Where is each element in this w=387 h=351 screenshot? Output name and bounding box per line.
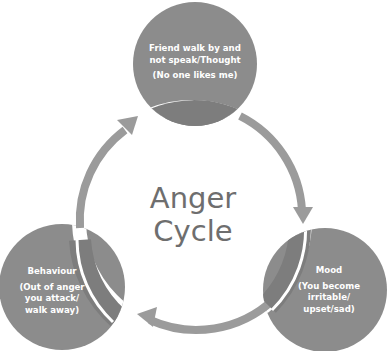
arrow-mood-to-behaviour: [150, 300, 273, 330]
node-mood-detail-3: upset/sad): [290, 304, 368, 316]
node-mood-detail-1: (You become: [290, 281, 368, 293]
node-thought-detail: (No one likes me): [135, 70, 255, 82]
node-behaviour-heading: Behaviour: [10, 266, 94, 278]
diagram-title: Anger Cycle: [128, 182, 258, 248]
node-behaviour: Behaviour (Out of anger you attack/ walk…: [10, 266, 94, 316]
node-thought: Friend walk by and not speak/Thought (No…: [135, 43, 255, 82]
title-line-2: Cycle: [128, 215, 258, 248]
title-line-1: Anger: [128, 182, 258, 215]
node-behaviour-detail-2: you attack/: [10, 293, 94, 305]
node-mood-detail-2: irritable/: [290, 292, 368, 304]
node-thought-heading-2: not speak/Thought: [135, 55, 255, 67]
node-behaviour-detail-3: walk away): [10, 305, 94, 317]
node-thought-heading-1: Friend walk by and: [135, 43, 255, 55]
arrowhead-down-icon: [293, 207, 313, 224]
arrow-behaviour-to-thought: [80, 130, 125, 228]
node-behaviour-detail-1: (Out of anger: [10, 282, 94, 294]
node-mood-heading: Mood: [290, 265, 368, 277]
node-mood: Mood (You become irritable/ upset/sad): [290, 265, 368, 315]
